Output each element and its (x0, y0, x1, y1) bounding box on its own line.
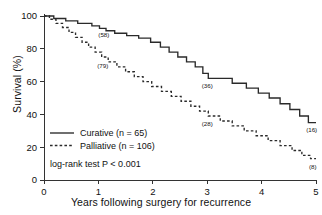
x-tick-label: 5 (313, 186, 318, 197)
risk-count-label: (28) (202, 120, 213, 127)
y-tick-label: 80 (26, 43, 37, 54)
y-tick-label: 100 (21, 10, 37, 21)
x-tick-label: 3 (205, 186, 210, 197)
x-tick-label: 4 (259, 186, 264, 197)
x-tick-label: 2 (150, 186, 155, 197)
x-tick-label: 1 (96, 186, 101, 197)
y-axis-ticks: 020406080100 (21, 10, 44, 185)
risk-count-label: (36) (202, 82, 213, 89)
risk-count-label: (8) (309, 163, 317, 170)
plot-area: 020406080100 012345 (58)(36)(16)(79)(28)… (0, 0, 322, 215)
series-line-curative (44, 16, 316, 123)
survival-curve-figure: Survival (%) Years following surgery for… (0, 0, 322, 215)
y-tick-label: 40 (26, 109, 37, 120)
legend-label: Palliative (n = 106) (80, 141, 155, 151)
risk-count-label: (58) (98, 31, 109, 38)
risk-count-label: (16) (306, 126, 317, 133)
x-tick-label: 0 (41, 186, 46, 197)
log-rank-stat-note: log-rank test P < 0.001 (50, 159, 141, 169)
y-tick-label: 60 (26, 76, 37, 87)
y-tick-label: 0 (32, 174, 37, 185)
legend-label: Curative (n = 65) (80, 128, 147, 138)
y-tick-label: 20 (26, 142, 37, 153)
risk-count-label: (79) (97, 62, 108, 69)
chart-legend: Curative (n = 65)Palliative (n = 106)log… (50, 128, 155, 169)
x-axis-ticks: 012345 (41, 180, 318, 197)
